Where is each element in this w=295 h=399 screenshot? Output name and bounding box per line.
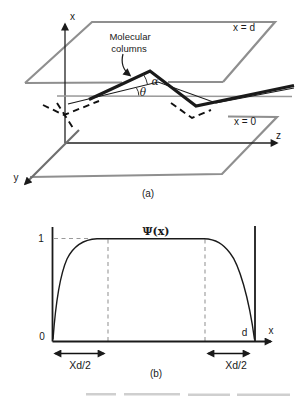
theta-angle-label: θ [140,86,147,98]
width-label-left: Xd/2 [69,359,91,371]
theta-angle-arc [137,88,139,96]
x-axis-label: x [70,11,75,22]
width-label-right: Xd/2 [225,359,247,371]
psi-curve [53,239,255,340]
cropped-caption-remnant [86,393,290,396]
curve-title: Ψ(x) [142,225,169,238]
z-axis-label: z [276,130,281,141]
annotation-molecular: Molecular [109,31,150,42]
panel-a: x = d x = 0 x z y α θ Molecular columns … [0,0,295,200]
b-x-axis-label: x [269,325,274,336]
panel-b: 1 0 Ψ(x) d x Xd/2 Xd/2 (b) [0,200,295,399]
origin-label: 0 [39,331,45,342]
xtick-d: d [242,327,248,338]
annotation-leader-arrow [122,54,130,76]
annotation-columns: columns [111,43,147,54]
alpha-angle-label: α [151,75,158,87]
molecular-columns-thick-zigzag [89,71,294,106]
panel-b-label: (b) [150,368,162,379]
bottom-plate-label: x = 0 [234,116,256,127]
figure: x = d x = 0 x z y α θ Molecular columns … [0,0,295,399]
alpha-angle-arc [144,75,148,85]
y-axis-label: y [14,172,19,183]
top-plate-label: x = d [233,22,255,33]
panel-a-label: (a) [142,188,154,199]
ytick-one: 1 [38,233,44,244]
